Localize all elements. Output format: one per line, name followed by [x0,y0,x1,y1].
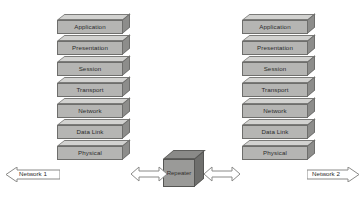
layer-presentation-left[interactable]: Presentation [57,35,139,55]
box-front-face: Presentation [242,41,308,55]
repeater-side-face [194,151,204,187]
layer-label: Data Link [261,129,288,135]
layer-network-right[interactable]: Network [242,98,324,118]
layer-application-left[interactable]: Application [57,14,139,34]
box-front-face: Session [57,62,123,76]
layer-physical-right[interactable]: Physical [242,140,324,160]
layer-label: Data Link [76,129,103,135]
repeater-node[interactable]: Repeater [163,150,207,192]
layer-presentation-right[interactable]: Presentation [242,35,324,55]
layer-network-left[interactable]: Network [57,98,139,118]
layer-transport-left[interactable]: Transport [57,77,139,97]
box-front-face: Data Link [57,125,123,139]
box-front-face: Session [242,62,308,76]
layer-label: Session [264,66,287,72]
layer-label: Transport [76,87,103,93]
layer-label: Network [263,108,286,114]
layer-label: Presentation [72,45,108,51]
layer-label: Transport [261,87,288,93]
repeater-to-right-physical-arrow [204,166,240,182]
layer-datalink-right[interactable]: Data Link [242,119,324,139]
box-front-face: Data Link [242,125,308,139]
layer-session-left[interactable]: Session [57,56,139,76]
left-protocol-stack: Application Presentation Session Transpo… [57,14,139,161]
layer-session-right[interactable]: Session [242,56,324,76]
box-front-face: Physical [57,146,123,160]
box-front-face: Transport [57,83,123,97]
layer-label: Physical [263,150,287,156]
box-front-face: Network [242,104,308,118]
network-2-banner: Network 2 [307,167,359,182]
network-1-label: Network 1 [19,167,47,182]
layer-label: Session [79,66,102,72]
box-front-face: Transport [242,83,308,97]
network-2-label: Network 2 [312,167,340,182]
layer-transport-right[interactable]: Transport [242,77,324,97]
box-front-face: Physical [242,146,308,160]
repeater-front-face: Repeater [163,159,195,187]
layer-label: Application [74,24,105,30]
layer-application-right[interactable]: Application [242,14,324,34]
layer-label: Physical [78,150,102,156]
box-front-face: Network [57,104,123,118]
layer-label: Application [259,24,290,30]
box-front-face: Presentation [57,41,123,55]
box-front-face: Application [57,20,123,34]
left-physical-to-repeater-arrow [131,166,167,182]
network-1-banner: Network 1 [6,167,60,182]
box-front-face: Application [242,20,308,34]
layer-physical-left[interactable]: Physical [57,140,139,160]
right-protocol-stack: Application Presentation Session Transpo… [242,14,324,161]
repeater-label: Repeater [167,170,192,176]
layer-datalink-left[interactable]: Data Link [57,119,139,139]
layer-label: Network [78,108,101,114]
layer-label: Presentation [257,45,293,51]
diagram-canvas: Application Presentation Session Transpo… [0,0,364,204]
